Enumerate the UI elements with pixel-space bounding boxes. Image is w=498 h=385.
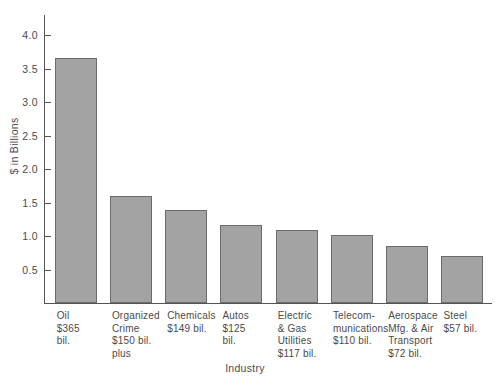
x-axis-tick-label: Oil $365 bil. [57,310,120,348]
x-axis-tick-label: Aerospace Mfg. & Air Transport $72 bil. [388,310,451,360]
x-axis-tick-label: Organized Crime $150 bil. plus [112,310,175,360]
x-axis-tick-label: Electric & Gas Utilities $117 bil. [278,310,341,360]
x-axis-tick-label: Steel $57 bil. [443,310,498,335]
bar-chart: 4.03.53.02.52.01.51.00.5 $ in Billions O… [0,0,498,385]
x-axis-title: Industry [195,362,295,374]
x-axis-tick-label: Telecom- munications $110 bil. [333,310,396,348]
bar [276,230,318,303]
bar [55,58,97,303]
bar [220,225,262,303]
bar [441,256,483,303]
x-axis-tick-label: Autos $125 bil. [222,310,285,348]
bar [110,196,152,303]
x-axis-tick-label: Chemicals $149 bil. [167,310,230,335]
bar [331,235,373,303]
bar [165,210,207,303]
bar [386,246,428,303]
